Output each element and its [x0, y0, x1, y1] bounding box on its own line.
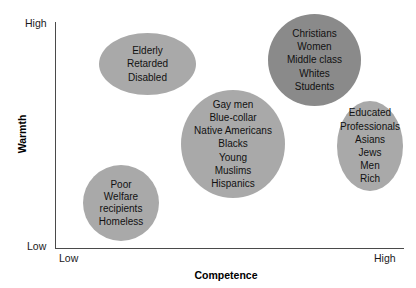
cluster-member-label: Disabled — [128, 71, 167, 84]
cluster-member-label: Christians — [292, 27, 336, 40]
cluster-member-label: Students — [295, 80, 334, 93]
x-axis-title: Competence — [0, 269, 416, 281]
cluster-member-label: Middle class — [287, 53, 342, 66]
cluster-member-label: Elderly — [132, 44, 163, 57]
cluster-member-label: Men — [360, 159, 379, 172]
cluster-member-label: Blacks — [218, 137, 247, 150]
y-axis-title: Warmth — [16, 98, 28, 170]
x-axis-low-tick-label: Low — [59, 252, 78, 264]
cluster-envied: Educated Professionals Asians Jews Men R… — [337, 101, 403, 191]
cluster-member-label: Rich — [360, 172, 380, 185]
cluster-member-label: Young — [219, 151, 247, 164]
cluster-admired: Christians Women Middle class Whites Stu… — [268, 14, 361, 106]
cluster-member-label: Poor — [110, 178, 131, 191]
cluster-member-label: Educated — [349, 106, 391, 119]
x-axis-line — [55, 248, 404, 249]
stereotype-content-chart: High Low Low High Competence Warmth Elde… — [0, 0, 416, 288]
cluster-member-label: Women — [297, 40, 331, 53]
cluster-member-label: Hispanics — [211, 177, 254, 190]
y-axis-high-tick-label: High — [25, 17, 47, 29]
cluster-member-label: Jews — [359, 146, 382, 159]
cluster-member-label: Homeless — [99, 215, 143, 228]
cluster-member-label: Professionals — [340, 120, 400, 133]
cluster-member-label: Welfare — [104, 191, 138, 203]
cluster-member-label: Blue-collar — [209, 111, 256, 124]
cluster-member-label: recipients — [100, 203, 143, 215]
cluster-member-label: Gay men — [213, 98, 254, 111]
cluster-member-label: Whites — [299, 67, 330, 80]
cluster-member-label: Retarded — [127, 57, 168, 70]
cluster-member-label: Asians — [355, 133, 385, 146]
cluster-member-label: Native Americans — [194, 124, 272, 137]
y-axis-low-tick-label: Low — [27, 240, 46, 252]
x-axis-high-tick-label: High — [374, 252, 396, 264]
cluster-middle: Gay men Blue-collar Native Americans Bla… — [181, 90, 285, 198]
cluster-member-label: Muslims — [215, 164, 252, 177]
cluster-elderly: Elderly Retarded Disabled — [99, 33, 196, 95]
y-axis-line — [55, 22, 56, 249]
cluster-poor: Poor Welfare recipients Homeless — [83, 165, 159, 241]
